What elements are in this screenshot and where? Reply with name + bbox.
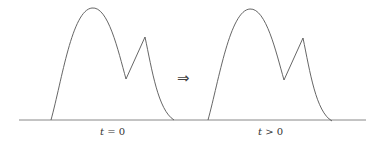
label-evolved-rel: > 0 [262,126,283,137]
label-initial: t = 0 [100,126,125,137]
diagram-canvas [0,0,384,145]
label-evolved: t > 0 [258,126,283,137]
curve-evolved [208,9,332,121]
implies-arrow-icon: ⇒ [177,71,190,86]
curve-initial [51,8,174,120]
label-initial-rel: = 0 [104,126,125,137]
